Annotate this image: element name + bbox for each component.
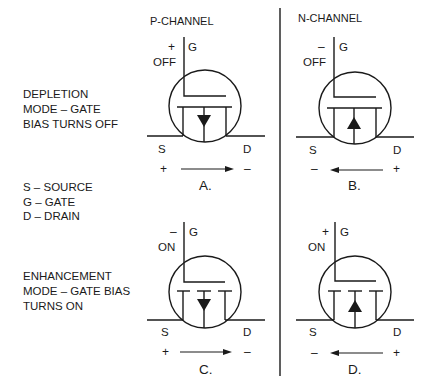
legend-gate: G – GATE — [23, 196, 76, 208]
source-polarity: – — [311, 162, 318, 176]
transistor-envelope — [169, 256, 241, 328]
gate-label: G — [339, 41, 348, 53]
gate-label: G — [188, 41, 197, 53]
arrow-down-icon — [197, 115, 211, 127]
transistor-b: – OFF G S D – + B. — [296, 37, 414, 193]
gate-polarity: + — [322, 225, 329, 239]
depletion-line-1: DEPLETION — [23, 88, 88, 100]
drain-polarity: + — [393, 346, 400, 360]
caption: A. — [199, 178, 212, 193]
gate-polarity: – — [318, 40, 325, 54]
arrow-right-icon — [223, 349, 232, 355]
source-label: S — [161, 326, 169, 338]
n-channel-header: N-CHANNEL — [298, 12, 362, 24]
drain-label: D — [243, 143, 251, 155]
p-channel-header: P-CHANNEL — [150, 15, 214, 27]
gate-label: G — [340, 226, 349, 238]
enhancement-mode-description: ENHANCEMENT MODE – GATE BIAS TURNS ON — [23, 270, 130, 312]
drain-label: D — [393, 326, 401, 338]
source-label: S — [309, 326, 317, 338]
depletion-mode-description: DEPLETION MODE – GATE BIAS TURNS OFF — [23, 88, 118, 130]
terminal-legend: S – SOURCE G – GATE D – DRAIN — [23, 181, 93, 222]
depletion-line-2: MODE – GATE — [23, 103, 101, 115]
gate-state: ON — [308, 241, 325, 253]
gate-polarity: – — [170, 225, 177, 239]
transistor-envelope — [169, 70, 241, 142]
depletion-line-3: BIAS TURNS OFF — [23, 118, 118, 130]
caption: D. — [348, 362, 362, 377]
drain-label: D — [393, 144, 401, 156]
gate-state: ON — [158, 241, 175, 253]
legend-source: S – SOURCE — [23, 181, 93, 193]
source-polarity: – — [311, 346, 318, 360]
drain-polarity: + — [393, 162, 400, 176]
source-label: S — [158, 143, 166, 155]
gate-state: OFF — [153, 56, 176, 68]
mosfet-diagram: P-CHANNEL N-CHANNEL DEPLETION MODE – GAT… — [0, 0, 437, 383]
source-label: S — [309, 144, 317, 156]
arrow-up-icon — [348, 300, 362, 312]
transistor-d: + ON G S D – + D. — [296, 222, 414, 377]
drain-label: D — [243, 326, 251, 338]
enhancement-line-2: MODE – GATE BIAS — [23, 285, 130, 297]
enhancement-line-3: TURNS ON — [23, 300, 83, 312]
gate-state: OFF — [303, 56, 326, 68]
drain-polarity: – — [244, 345, 251, 359]
arrow-left-icon — [330, 350, 339, 356]
arrow-right-icon — [225, 166, 234, 172]
enhancement-line-1: ENHANCEMENT — [23, 270, 112, 282]
arrow-up-icon — [347, 117, 361, 129]
source-polarity: + — [160, 162, 167, 176]
caption: C. — [199, 362, 213, 377]
arrow-left-icon — [330, 167, 339, 173]
arrow-down-icon — [197, 299, 211, 311]
transistor-c: – ON G S D + – C. — [147, 222, 265, 377]
transistor-a: + OFF G S D + – A. — [147, 37, 265, 193]
source-polarity: + — [162, 345, 169, 359]
gate-label: G — [189, 226, 198, 238]
drain-polarity: – — [244, 162, 251, 176]
gate-polarity: + — [168, 40, 175, 54]
caption: B. — [348, 178, 361, 193]
legend-drain: D – DRAIN — [23, 210, 80, 222]
